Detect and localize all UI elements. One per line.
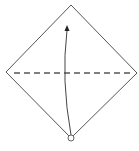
origami-diagram xyxy=(0,0,139,151)
corner-marker-icon xyxy=(68,135,74,141)
paper-diamond xyxy=(6,5,137,138)
